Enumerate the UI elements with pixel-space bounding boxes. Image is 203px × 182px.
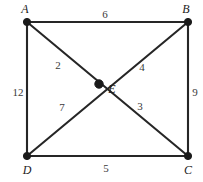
vertex-d[interactable] xyxy=(23,152,30,159)
edge-weight-b-c: 9 xyxy=(192,87,198,98)
edge-weight-c-e: 3 xyxy=(137,101,143,112)
graph-diagram: 612952473ABCDE xyxy=(0,0,203,182)
graph-canvas xyxy=(0,0,203,182)
edge-weight-a-e: 2 xyxy=(55,60,61,71)
edge-weight-a-d: 12 xyxy=(13,87,24,98)
vertex-label-d: D xyxy=(23,164,32,176)
edge-weight-d-e: 7 xyxy=(59,102,65,113)
vertex-label-e: E xyxy=(108,83,115,95)
vertex-label-b: B xyxy=(182,3,189,15)
vertex-a[interactable] xyxy=(23,18,30,25)
vertex-label-a: A xyxy=(21,3,28,15)
vertex-b[interactable] xyxy=(184,18,191,25)
vertex-e[interactable] xyxy=(95,80,103,88)
edge-weight-a-b: 6 xyxy=(102,9,108,20)
vertex-label-c: C xyxy=(184,164,192,176)
vertex-c[interactable] xyxy=(184,152,191,159)
edge-weight-d-c: 5 xyxy=(103,163,109,174)
edge-weight-b-e: 4 xyxy=(139,62,145,73)
